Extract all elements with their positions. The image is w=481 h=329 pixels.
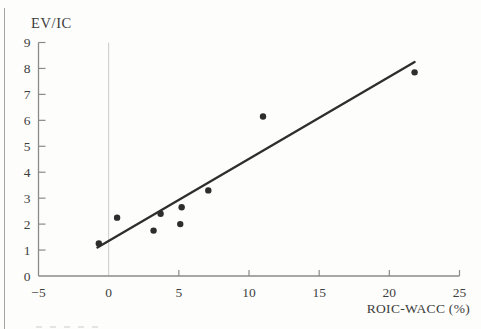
- y-tick-label: 4: [24, 165, 31, 180]
- x-tick-label: 0: [105, 285, 112, 300]
- scanned-page: 0123456789−50510152025 EV/IC ROIC-WACC (…: [0, 0, 481, 329]
- y-tick-label: 7: [24, 87, 31, 102]
- data-point: [260, 113, 266, 119]
- data-point: [178, 204, 184, 210]
- data-point: [96, 240, 102, 246]
- y-tick-label: 8: [24, 61, 31, 76]
- x-tick-label: 10: [242, 285, 256, 300]
- data-point: [114, 214, 120, 220]
- x-tick-label: −5: [31, 285, 46, 300]
- y-tick-label: 1: [24, 243, 31, 258]
- x-tick-label: 20: [383, 285, 397, 300]
- x-axis-title: ROIC-WACC (%): [367, 301, 470, 317]
- data-point: [177, 221, 183, 227]
- y-tick-label: 2: [24, 217, 31, 232]
- trend-line: [97, 62, 414, 248]
- scan-artifact: [36, 326, 100, 328]
- data-point: [205, 187, 211, 193]
- data-point: [150, 227, 156, 233]
- y-axis-title: EV/IC: [31, 15, 72, 32]
- y-tick-label: 9: [24, 35, 31, 50]
- y-tick-label: 3: [24, 191, 31, 206]
- x-tick-label: 15: [312, 285, 326, 300]
- x-tick-label: 25: [453, 285, 467, 300]
- data-point: [157, 211, 163, 217]
- data-point: [411, 69, 417, 75]
- x-tick-label: 5: [175, 285, 182, 300]
- y-tick-label: 0: [24, 269, 31, 284]
- scatter-plot: 0123456789−50510152025: [0, 0, 481, 329]
- y-tick-label: 5: [24, 139, 31, 154]
- y-tick-label: 6: [24, 113, 31, 128]
